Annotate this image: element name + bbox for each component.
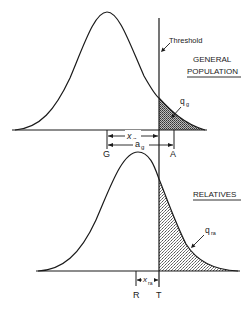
- xra-distance-arrow: x ra: [137, 274, 158, 286]
- liability-threshold-diagram: x g a g G A Threshold GENERAL POPULATION…: [0, 0, 252, 311]
- mean-label-r: R: [133, 290, 140, 300]
- threshold-label-t: T: [156, 290, 162, 300]
- svg-text:g: g: [186, 101, 189, 107]
- threshold-label: Threshold: [169, 36, 202, 45]
- general-population-panel: x g a g G A Threshold GENERAL POPULATION…: [12, 12, 241, 159]
- ag-distance-arrow: a g: [108, 139, 173, 150]
- relatives-title: RELATIVES: [193, 190, 236, 199]
- mean-label-g: G: [103, 149, 110, 159]
- general-title-line2: POPULATION: [187, 67, 238, 76]
- svg-text:a: a: [135, 139, 140, 149]
- svg-text:ra: ra: [148, 280, 153, 286]
- svg-text:g: g: [141, 144, 144, 150]
- general-title-line1: GENERAL: [193, 55, 232, 64]
- qg-label: q: [180, 96, 185, 106]
- mean-label-a: A: [170, 149, 176, 159]
- qra-label: q: [205, 225, 210, 235]
- svg-text:x: x: [126, 131, 132, 141]
- relatives-distribution-curve: [38, 152, 238, 271]
- relatives-panel: x ra R T RELATIVES q ra: [36, 152, 241, 300]
- svg-text:ra: ra: [211, 230, 217, 236]
